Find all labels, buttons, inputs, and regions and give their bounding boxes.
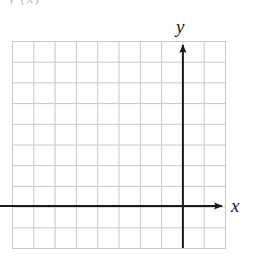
x-axis-label: x — [231, 196, 239, 215]
y-axis-label: y — [176, 17, 184, 36]
coordinate-plane — [0, 0, 253, 256]
grid — [12, 41, 226, 249]
